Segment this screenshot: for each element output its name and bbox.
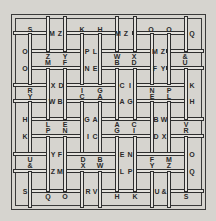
grid-letter: G: [84, 116, 89, 123]
grid-letter: M: [49, 30, 55, 37]
bar[interactable]: [100, 49, 153, 53]
bar[interactable]: [65, 152, 117, 156]
bar[interactable]: [65, 169, 117, 173]
grid-letter: H: [22, 116, 27, 123]
grid-letter: G: [114, 127, 119, 134]
bar[interactable]: [80, 171, 84, 208]
grid-letter: I: [133, 127, 135, 134]
bar[interactable]: [133, 68, 137, 120]
grid-letter: R: [85, 188, 90, 195]
grid-letter: E: [120, 151, 125, 158]
bar[interactable]: [28, 33, 32, 85]
inner-frame: [15, 18, 202, 206]
bar[interactable]: [63, 68, 67, 120]
grid-letter: R: [183, 127, 188, 134]
bar[interactable]: [167, 33, 171, 85]
bar[interactable]: [30, 49, 83, 53]
grid-letter: L: [93, 48, 97, 55]
bar[interactable]: [150, 33, 154, 85]
grid-letter: C: [79, 93, 84, 100]
grid-letter: F: [63, 59, 67, 66]
bar[interactable]: [98, 171, 102, 208]
bar[interactable]: [30, 189, 83, 193]
bar[interactable]: [46, 68, 50, 120]
grid-letter: Y: [28, 93, 33, 100]
grid-letter: U: [182, 59, 187, 66]
bar[interactable]: [63, 16, 67, 52]
bar[interactable]: [135, 99, 188, 103]
grid-letter: I: [87, 133, 89, 140]
grid-letter: K: [189, 82, 194, 89]
grid-letter: A: [97, 93, 102, 100]
grid-letter: F: [153, 65, 157, 72]
grid-letter: E: [150, 93, 155, 100]
grid-letter: K: [22, 133, 27, 140]
grid-letter: O: [166, 26, 171, 33]
grid-letter: S: [23, 188, 28, 195]
bar[interactable]: [100, 117, 153, 121]
grid-letter: B: [57, 98, 62, 105]
bar[interactable]: [132, 31, 187, 35]
grid-letter: M: [45, 59, 51, 66]
grid-letter: B: [114, 59, 119, 66]
grid-letter: W: [97, 162, 104, 169]
grid-letter: B: [153, 116, 158, 123]
bar[interactable]: [65, 99, 117, 103]
grid-letter: P: [46, 127, 51, 134]
grid-letter: O: [22, 48, 27, 55]
bar[interactable]: [133, 136, 137, 192]
bar[interactable]: [150, 101, 154, 153]
bar[interactable]: [65, 31, 117, 35]
grid-letter: I: [129, 82, 131, 89]
bar[interactable]: [135, 152, 188, 156]
grid-letter: O: [22, 65, 27, 72]
bar[interactable]: [115, 68, 119, 120]
grid-letter: C: [92, 133, 97, 140]
grid-letter: V: [93, 188, 98, 195]
grid-letter: W: [161, 116, 168, 123]
grid-letter: Q: [189, 30, 194, 37]
grid-letter: &: [27, 162, 32, 169]
grid-letter: N: [127, 151, 132, 158]
grid-letter: X: [162, 133, 167, 140]
bar[interactable]: [98, 101, 102, 153]
bar[interactable]: [100, 189, 153, 193]
bar[interactable]: [65, 83, 117, 87]
bar[interactable]: [46, 136, 50, 192]
bar[interactable]: [100, 66, 153, 70]
grid-letter: P: [128, 168, 133, 175]
bar[interactable]: [30, 66, 83, 70]
bar[interactable]: [63, 136, 67, 192]
grid-letter: H: [114, 193, 119, 200]
bar[interactable]: [184, 68, 188, 120]
bar[interactable]: [100, 134, 153, 138]
bar[interactable]: [135, 83, 188, 87]
bar[interactable]: [28, 171, 32, 208]
bar[interactable]: [30, 117, 83, 121]
grid-letter: M: [152, 48, 158, 55]
grid-letter: Y: [51, 151, 56, 158]
grid-letter: D: [58, 82, 63, 89]
grid-letter: Z: [124, 30, 128, 37]
grid-letter: P: [85, 48, 90, 55]
bar[interactable]: [80, 101, 84, 153]
bar[interactable]: [150, 171, 154, 208]
grid-letter: F: [58, 151, 62, 158]
bar[interactable]: [98, 33, 102, 85]
grid-letter: C: [119, 82, 124, 89]
grid-letter: Q: [189, 168, 194, 175]
bar[interactable]: [30, 134, 83, 138]
bar[interactable]: [28, 101, 32, 153]
bar[interactable]: [167, 171, 171, 208]
grid-letter: A: [119, 98, 124, 105]
grid-letter: M: [115, 30, 121, 37]
grid-letter: &: [161, 188, 166, 195]
bar[interactable]: [80, 33, 84, 85]
bar[interactable]: [133, 16, 137, 52]
grid-letter: L: [120, 168, 124, 175]
bar[interactable]: [135, 169, 188, 173]
bar[interactable]: [115, 136, 119, 192]
bar[interactable]: [184, 136, 188, 192]
bar[interactable]: [184, 16, 188, 52]
bar[interactable]: [167, 101, 171, 153]
